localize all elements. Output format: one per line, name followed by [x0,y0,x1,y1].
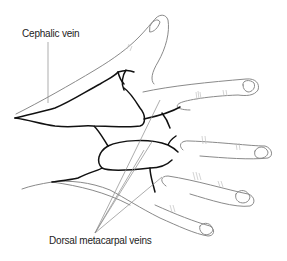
knuckle-creases [127,44,240,212]
vein-branch-index [144,107,180,128]
middle-finger-outline [180,141,271,159]
index-fingernail [243,81,255,92]
veins [15,70,180,192]
vein-connector-1 [94,126,108,146]
hand-vein-diagram [0,0,287,261]
cephalic-vein-label: Cephalic vein [22,28,79,39]
leader-lines [48,42,162,233]
little-finger-outline [22,181,214,236]
metacarpal-leader-2 [95,140,153,233]
metacarpal-leader-1 [95,150,144,233]
vein-branch-thumb-2 [122,70,126,90]
middle-fingernail [255,147,268,158]
index-finger-outline [143,79,259,110]
vein-network-upper [15,88,145,127]
ring-fingernail [236,190,250,202]
metacarpal-leader-3 [95,177,162,233]
vein-network-middle-lower [99,146,172,170]
thumbnail [150,20,160,32]
vein-network-lower [52,168,102,182]
vein-network-middle [108,136,178,152]
cephalic-vein-path [15,71,134,119]
dorsal-metacarpal-veins-label: Dorsal metacarpal veins [49,235,152,246]
vein-branch-ring [150,168,155,192]
